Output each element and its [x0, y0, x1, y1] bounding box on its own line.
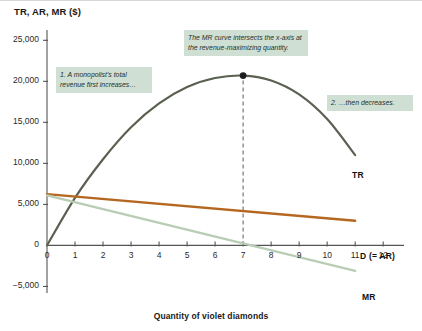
annotation-mr-intersects: The MR curve intersects the x-axis at th… [184, 30, 308, 56]
annotation-tr-decreases: 2. …then decreases. [327, 95, 413, 111]
y-tick-label: 5,000 [0, 198, 39, 208]
x-tick-label: 3 [121, 250, 141, 260]
x-tick-label: 0 [37, 250, 57, 260]
y-axis-title: TR, AR, MR ($) [14, 6, 81, 17]
series-group [47, 75, 355, 270]
curve-label-tr: TR [352, 170, 364, 180]
x-tick-label: 2 [93, 250, 113, 260]
y-tick-label: 15,000 [0, 116, 39, 126]
x-tick-label: 10 [317, 250, 337, 260]
y-tick-label: −5,000 [0, 280, 39, 290]
y-tick-label: 20,000 [0, 75, 39, 85]
y-tick-label: 10,000 [0, 157, 39, 167]
annotation-tr-increases: 1. A monopolist's total revenue first in… [56, 67, 152, 93]
x-tick-label: 7 [233, 250, 253, 260]
y-tick-label: 25,000 [0, 34, 39, 44]
curve-label-mr: MR [362, 292, 376, 302]
x-tick-label: 5 [177, 250, 197, 260]
curve-label-demand: D (= AR) [360, 251, 395, 261]
x-tick-label: 6 [205, 250, 225, 260]
x-tick-label: 1 [65, 250, 85, 260]
revenue-curves-figure: TR, AR, MR ($) −5,00005,00010,00015,0002… [0, 1, 422, 331]
y-tick-label: 0 [0, 239, 39, 249]
x-axis-title: Quantity of violet diamonds [0, 311, 422, 321]
x-tick-label: 8 [261, 250, 281, 260]
series-line-tr [47, 75, 355, 245]
revenue-maximizing-point [240, 72, 247, 79]
x-tick-label: 4 [149, 250, 169, 260]
markers-group [240, 72, 247, 79]
x-tick-label: 9 [289, 250, 309, 260]
